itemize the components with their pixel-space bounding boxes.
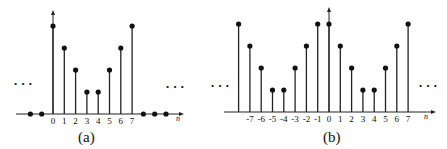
y-axis-arrow-icon bbox=[327, 7, 331, 12]
tick-label: 4 bbox=[372, 114, 377, 124]
stem-dot bbox=[406, 21, 411, 26]
panel-b-right-ellipsis: • • • bbox=[419, 81, 438, 91]
stem-dot bbox=[163, 111, 168, 116]
panel-a-right-ellipsis: • • • bbox=[166, 82, 185, 92]
tick-label: 6 bbox=[395, 114, 400, 124]
panel-a-plot: 01234567 bbox=[16, 10, 184, 126]
stem-dot bbox=[236, 21, 241, 26]
stem-dot bbox=[62, 45, 67, 50]
stem-dot bbox=[270, 87, 275, 92]
tick-label: -4 bbox=[280, 114, 288, 124]
stem-dot bbox=[50, 23, 55, 28]
panel-a-caption: (a) bbox=[78, 129, 95, 146]
panel-a-n-label: n bbox=[176, 114, 180, 123]
stem-dot bbox=[281, 87, 286, 92]
stem-dot bbox=[326, 21, 331, 26]
stem-dot bbox=[360, 87, 365, 92]
tick-label: 7 bbox=[130, 116, 135, 126]
panel-a-left-ellipsis: • • • bbox=[14, 79, 33, 89]
stem-dot bbox=[141, 111, 146, 116]
tick-label: 2 bbox=[73, 116, 78, 126]
tick-label: 3 bbox=[85, 116, 90, 126]
x-axis-arrow-icon bbox=[431, 110, 436, 114]
stem-dot bbox=[28, 111, 33, 116]
stem-dot bbox=[349, 65, 354, 70]
stem-dot bbox=[259, 65, 264, 70]
tick-label: 5 bbox=[107, 116, 112, 126]
tick-label: 1 bbox=[338, 114, 343, 124]
y-axis-arrow-icon bbox=[51, 10, 55, 15]
stem-dot bbox=[304, 43, 309, 48]
tick-label: -3 bbox=[291, 114, 299, 124]
tick-label: -6 bbox=[257, 114, 265, 124]
tick-label: 7 bbox=[406, 114, 411, 124]
stem-dot bbox=[107, 67, 112, 72]
stem-dot bbox=[293, 65, 298, 70]
stem-dot bbox=[247, 43, 252, 48]
stem-dot bbox=[73, 67, 78, 72]
panel-b-n-label: n bbox=[424, 112, 428, 121]
stem-dot bbox=[315, 21, 320, 26]
tick-label: 6 bbox=[119, 116, 124, 126]
tick-label: 2 bbox=[349, 114, 354, 124]
stem-dot bbox=[372, 87, 377, 92]
stem-dot bbox=[383, 65, 388, 70]
panel-b-left-ellipsis: • • • bbox=[211, 81, 230, 91]
tick-label: 0 bbox=[327, 114, 332, 124]
tick-label: 3 bbox=[361, 114, 366, 124]
panel-b-caption: (b) bbox=[323, 129, 341, 146]
tick-label: 0 bbox=[51, 116, 56, 126]
stem-dot bbox=[118, 45, 123, 50]
tick-label: -7 bbox=[246, 114, 254, 124]
panel-b-plot: -7-6-5-4-3-2-101234567 bbox=[224, 7, 436, 124]
stem-dot bbox=[84, 89, 89, 94]
tick-label: -2 bbox=[303, 114, 311, 124]
stem-dot bbox=[39, 111, 44, 116]
stem-dot bbox=[152, 111, 157, 116]
stem-plots-figure: 01234567 -7-6-5-4-3-2-101234567 n n • • … bbox=[0, 0, 447, 149]
stem-dot bbox=[394, 43, 399, 48]
stem-dot bbox=[338, 43, 343, 48]
stem-dot bbox=[130, 23, 135, 28]
tick-label: -1 bbox=[314, 114, 322, 124]
tick-label: -5 bbox=[269, 114, 277, 124]
tick-label: 5 bbox=[383, 114, 388, 124]
tick-label: 1 bbox=[62, 116, 67, 126]
stem-dot bbox=[96, 89, 101, 94]
tick-label: 4 bbox=[96, 116, 101, 126]
